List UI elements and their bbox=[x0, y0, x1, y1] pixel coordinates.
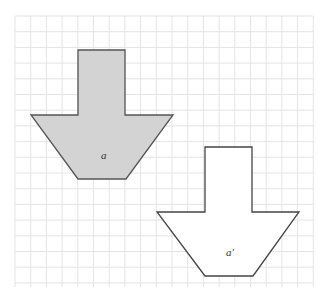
diagram-canvas: a a′ bbox=[0, 0, 328, 302]
label-a: a bbox=[101, 149, 107, 161]
label-a-prime: a′ bbox=[226, 246, 235, 258]
